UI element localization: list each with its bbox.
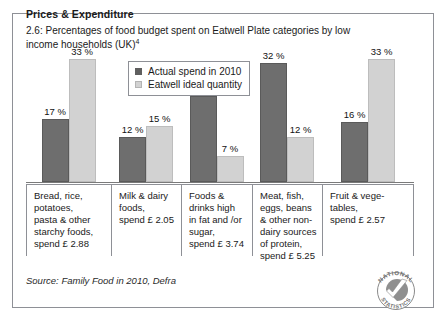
bar-value-label: 33 % bbox=[71, 46, 93, 57]
bar-value-label: 16 % bbox=[344, 109, 366, 120]
category-label-line: spend £ 2.88 bbox=[34, 238, 106, 250]
bar-actual-spend[interactable] bbox=[341, 122, 368, 182]
legend-item-ideal[interactable]: Eatwell ideal quantity bbox=[135, 78, 242, 91]
bar-eatwell-ideal[interactable] bbox=[217, 156, 244, 182]
bar-actual-spend[interactable] bbox=[119, 137, 146, 182]
category-label-line: spend £ 3.74 bbox=[189, 238, 247, 250]
category-label-line: Fruit & vege- bbox=[330, 190, 408, 202]
bar-wrapper: 12 % bbox=[287, 48, 314, 182]
category-label-line: tables, bbox=[330, 202, 408, 214]
bar-group: 16 %33 % bbox=[322, 48, 414, 182]
legend-swatch-ideal-icon bbox=[135, 81, 142, 88]
category-label-line: spend £ 2.05 bbox=[119, 214, 176, 226]
category-label-line: Foods & bbox=[189, 190, 247, 202]
bar-wrapper: 16 % bbox=[341, 48, 368, 182]
category-label-row: Bread, rice,potatoes,pasta & otherstarch… bbox=[26, 184, 414, 256]
category-label-cell: Fruit & vege-tables,spend £ 2.57 bbox=[322, 185, 414, 256]
category-label-cell: Milk & dairyfoods,spend £ 2.05 bbox=[111, 185, 181, 256]
bar-value-label: 15 % bbox=[149, 113, 171, 124]
category-label-cell: Meat, fish,eggs, beans& other non-dairy … bbox=[252, 185, 322, 256]
category-label-line: spend £ 2.57 bbox=[330, 214, 408, 226]
bar-wrapper: 32 % bbox=[260, 48, 287, 182]
category-label-line: drinks high bbox=[189, 202, 247, 214]
figure-subtitle-line-1: 2.6: Percentages of food budget spent on… bbox=[26, 25, 270, 36]
legend-label-ideal: Eatwell ideal quantity bbox=[148, 79, 242, 90]
bar-value-label: 33 % bbox=[371, 46, 393, 57]
category-label-line: Milk & dairy bbox=[119, 190, 176, 202]
bar-group: 17 %33 % bbox=[26, 48, 111, 182]
category-label-cell: Foods &drinks highin fat and /orsugar,sp… bbox=[181, 185, 252, 256]
bar-actual-spend[interactable] bbox=[42, 119, 69, 182]
source-note: Source: Family Food in 2010, Defra bbox=[26, 275, 176, 286]
category-label-line: in fat and /or bbox=[189, 214, 247, 226]
bar-eatwell-ideal[interactable] bbox=[287, 137, 314, 182]
bar-value-label: 12 % bbox=[290, 124, 312, 135]
category-label-line: sugar, bbox=[189, 226, 247, 238]
category-label-cell: Bread, rice,potatoes,pasta & otherstarch… bbox=[26, 185, 111, 256]
national-statistics-logo-icon: NATIONAL STATISTICS bbox=[371, 266, 421, 316]
bar-wrapper: 17 % bbox=[42, 48, 69, 182]
category-label-line: & other non- bbox=[260, 214, 317, 226]
bar-eatwell-ideal[interactable] bbox=[69, 59, 96, 182]
bar-value-label: 17 % bbox=[44, 106, 66, 117]
bar-actual-spend[interactable] bbox=[190, 96, 217, 182]
legend-swatch-actual-icon bbox=[135, 68, 142, 75]
bar-value-label: 7 % bbox=[222, 143, 238, 154]
category-label-line: eggs, beans bbox=[260, 202, 317, 214]
bar-value-label: 12 % bbox=[122, 124, 144, 135]
bar-wrapper: 33 % bbox=[368, 48, 395, 182]
category-label-line: Meat, fish, bbox=[260, 190, 317, 202]
category-label-line: dairy sources bbox=[260, 226, 317, 238]
chart-legend: Actual spend in 2010 Eatwell ideal quant… bbox=[128, 61, 250, 96]
legend-item-actual[interactable]: Actual spend in 2010 bbox=[135, 65, 242, 78]
bar-eatwell-ideal[interactable] bbox=[146, 126, 173, 182]
category-label-line: foods, bbox=[119, 202, 176, 214]
bar-actual-spend[interactable] bbox=[260, 63, 287, 182]
category-label-line: starchy foods, bbox=[34, 226, 106, 238]
figure-heading: Prices & Expenditure bbox=[26, 8, 134, 20]
category-label-line: of protein, bbox=[260, 238, 317, 250]
footnote-marker: 4 bbox=[136, 37, 140, 44]
x-axis-line bbox=[26, 182, 414, 183]
bar-value-label: 32 % bbox=[263, 50, 285, 61]
category-label-line: Bread, rice, bbox=[34, 190, 106, 202]
category-label-line: spend £ 5.25 bbox=[260, 250, 317, 262]
bar-eatwell-ideal[interactable] bbox=[368, 59, 395, 182]
bar-group: 32 %12 % bbox=[252, 48, 322, 182]
legend-label-actual: Actual spend in 2010 bbox=[148, 66, 241, 77]
bar-wrapper: 33 % bbox=[69, 48, 96, 182]
category-label-line: potatoes, bbox=[34, 202, 106, 214]
category-label-line: pasta & other bbox=[34, 214, 106, 226]
